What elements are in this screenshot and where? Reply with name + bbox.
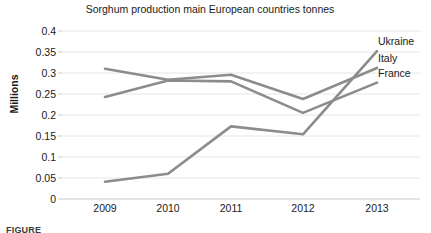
figure-caption: FIGURE [6, 225, 41, 233]
series-label-france: France [378, 67, 411, 79]
plot-area [0, 0, 431, 233]
series-label-italy: Italy [378, 52, 397, 64]
data-series-lines [105, 51, 377, 182]
series-label-ukraine: Ukraine [378, 35, 414, 47]
series-line-ukraine [105, 51, 377, 182]
chart-figure: Sorghum production main European countri… [0, 0, 431, 233]
gridlines [62, 31, 420, 178]
